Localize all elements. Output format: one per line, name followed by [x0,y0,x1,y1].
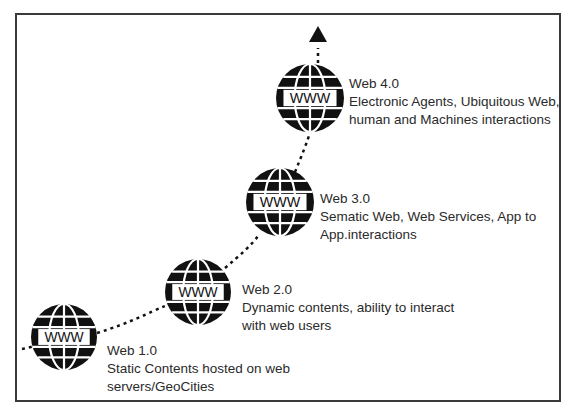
stage-title: Web 4.0 [349,75,560,93]
stage-description-line: Sematic Web, Web Services, App to [320,208,536,226]
stage-description-line: with web users [242,317,454,335]
globe-www-icon: WWW [246,168,314,236]
stage-label-web1: Web 1.0 Static Contents hosted on web se… [107,342,290,396]
stage-label-web2: Web 2.0 Dynamic contents, ability to int… [242,281,454,335]
arrow-head-icon [309,26,327,42]
stage-title: Web 3.0 [320,190,536,208]
stage-title: Web 1.0 [107,342,290,360]
stage-description-line: App.interactions [320,226,536,244]
stage-description-line: Electronic Agents, Ubiquitous Web, [349,93,560,111]
globe-www-icon: WWW [276,64,344,132]
globe-www-text: WWW [290,90,331,106]
stage-description-line: Static Contents hosted on web [107,360,290,378]
stage-description-line: human and Machines interactions [349,111,560,129]
globe-www-text: WWW [178,284,218,300]
globe-www-text: WWW [44,329,84,345]
stage-label-web4: Web 4.0 Electronic Agents, Ubiquitous We… [349,75,560,129]
globe-www-icon: WWW [31,304,97,370]
globe-www-icon: WWW [165,259,231,325]
stage-description-line: Dynamic contents, ability to interact [242,299,454,317]
stage-title: Web 2.0 [242,281,454,299]
stage-description-line: servers/GeoCities [107,378,290,396]
stage-label-web3: Web 3.0 Sematic Web, Web Services, App t… [320,190,536,244]
globe-www-text: WWW [260,194,301,210]
